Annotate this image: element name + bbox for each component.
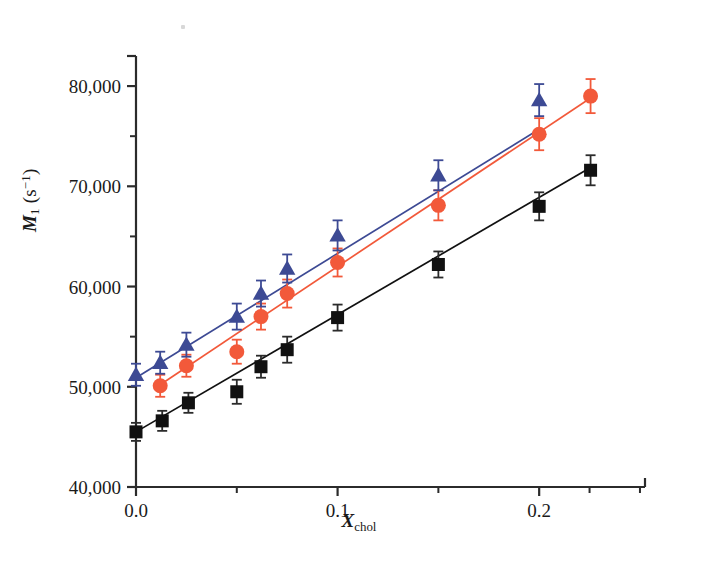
data-point-circle: [253, 309, 268, 324]
y-axis-tick-label: 80,000: [69, 76, 121, 97]
data-point-circle: [179, 358, 194, 373]
data-point-square: [182, 396, 195, 409]
y-axis-tick-label: 60,000: [69, 277, 121, 298]
data-point-circle: [280, 286, 295, 301]
data-point-circle: [431, 198, 446, 213]
data-point-triangle: [430, 167, 446, 181]
data-point-square: [281, 343, 294, 356]
y-axis-label-unit-close: ): [19, 168, 40, 175]
data-point-square: [156, 414, 169, 427]
error-bars-group: [131, 79, 596, 441]
y-axis-label-unit-open: (s: [19, 189, 40, 208]
y-axis-tick-label: 50,000: [69, 377, 121, 398]
data-point-square: [584, 164, 597, 177]
plot-svg: 40,00050,00060,00070,00080,000 0.00.10.2: [0, 0, 718, 566]
axis-lines: [136, 56, 645, 487]
y-axis-tick-labels: 40,00050,00060,00070,00080,000: [69, 76, 121, 498]
y-axis-tick-label: 70,000: [69, 176, 121, 197]
data-point-triangle: [152, 355, 168, 369]
fit-line-red-circles: [160, 98, 590, 385]
data-point-square: [230, 385, 243, 398]
fit-line-black-squares: [136, 167, 591, 431]
data-point-square: [331, 311, 344, 324]
data-point-triangle: [531, 92, 547, 106]
y-axis-tick-label: 40,000: [69, 477, 121, 498]
data-markers-group: [128, 89, 598, 439]
y-axis-label-symbol: M: [19, 215, 40, 232]
y-axis-label: M1 (s−1): [18, 168, 43, 232]
y-axis-label-subscript: 1: [27, 208, 42, 215]
data-point-square: [432, 258, 445, 271]
x-axis-label: Xchol: [342, 510, 377, 535]
data-point-circle: [330, 255, 345, 270]
data-point-circle: [229, 344, 244, 359]
fit-lines-group: [136, 98, 591, 432]
data-point-triangle: [229, 308, 245, 322]
data-point-triangle: [253, 285, 269, 299]
x-axis-tick-label: 0.0: [124, 500, 148, 521]
figure-container: M1 (s−1) Xchol 40,00050,00060,00070,0008…: [0, 0, 718, 566]
data-point-square: [254, 360, 267, 373]
x-axis-tick-labels: 0.00.10.2: [124, 500, 551, 521]
data-point-circle: [532, 127, 547, 142]
y-axis-label-unit-exponent: −1: [18, 175, 33, 189]
x-axis-label-symbol: X: [342, 510, 355, 531]
x-axis-label-subscript: chol: [354, 519, 376, 534]
data-point-circle: [153, 378, 168, 393]
x-axis-tick-label: 0.2: [527, 500, 551, 521]
data-point-triangle: [329, 227, 345, 241]
data-point-triangle: [279, 260, 295, 274]
data-point-circle: [583, 89, 598, 104]
data-point-square: [533, 200, 546, 213]
data-point-square: [130, 425, 143, 438]
dust-speck-artifact: [181, 25, 185, 29]
